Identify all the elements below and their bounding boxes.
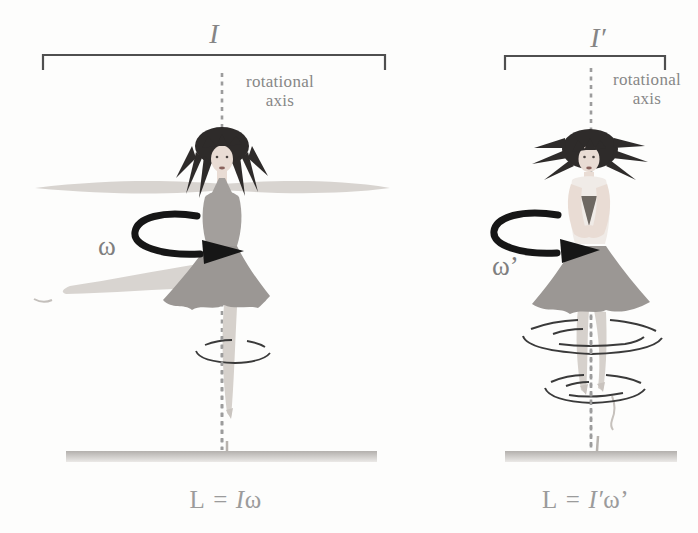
standing-leg <box>223 305 237 418</box>
dancer-left <box>34 127 390 419</box>
face <box>211 146 233 184</box>
toe-mark-right <box>597 436 598 451</box>
angular-momentum-equation-left: L=Iω <box>118 486 333 514</box>
rotational-axis-label-left: rotational axis <box>227 72 333 110</box>
rotational-axis-label-line1: rotational <box>227 72 333 91</box>
spin-ellipses-upper <box>523 320 662 354</box>
equation-lhs: L <box>189 486 205 513</box>
angular-momentum-equation-right: L=I′ω’ <box>478 486 693 514</box>
equation-inertia: I <box>236 486 245 513</box>
blurred-arms <box>35 181 390 193</box>
equation-omega: ω’ <box>603 486 629 513</box>
moment-of-inertia-label-right: I′ <box>538 22 658 54</box>
equation-sign: = <box>213 486 228 513</box>
rotational-axis-label-line1: rotational <box>596 70 698 89</box>
dancer-right <box>494 129 662 430</box>
inertia-bracket-right <box>505 56 665 70</box>
floor-left <box>66 451 377 462</box>
diagram-art <box>0 0 698 533</box>
inertia-bracket-left <box>43 55 385 70</box>
pointe-shoe-blur <box>34 299 52 302</box>
equation-omega: ω <box>245 486 262 513</box>
rotational-axis-label-line2: axis <box>227 91 333 110</box>
lips <box>586 167 592 170</box>
face <box>579 146 600 180</box>
rotation-arrow <box>494 213 558 253</box>
moment-of-inertia-label-left: I <box>43 18 385 50</box>
equation-lhs: L <box>542 486 558 513</box>
angular-velocity-label-right: ω’ <box>492 251 519 282</box>
angular-momentum-diagram: I I′ rotational axis rotational axis ω ω… <box>0 0 698 533</box>
rotational-axis-label-line2: axis <box>596 89 698 108</box>
angular-velocity-label-left: ω <box>98 231 116 262</box>
rotation-arrow <box>135 214 200 254</box>
spin-ellipses-lower <box>545 375 645 403</box>
equation-inertia: I′ <box>588 486 603 513</box>
equation-sign: = <box>566 486 581 513</box>
rotational-axis-label-right: rotational axis <box>596 70 698 108</box>
lips <box>219 167 225 170</box>
floor-right <box>505 451 677 462</box>
